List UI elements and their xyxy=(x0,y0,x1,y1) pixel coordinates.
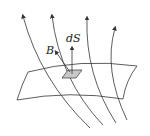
field-vector-arrow xyxy=(56,52,70,72)
ds-label: dS xyxy=(66,32,81,45)
field-line-4 xyxy=(111,28,127,120)
b-label: B xyxy=(45,44,54,57)
surface xyxy=(17,63,137,100)
flux-diagram: dS B xyxy=(0,0,150,136)
